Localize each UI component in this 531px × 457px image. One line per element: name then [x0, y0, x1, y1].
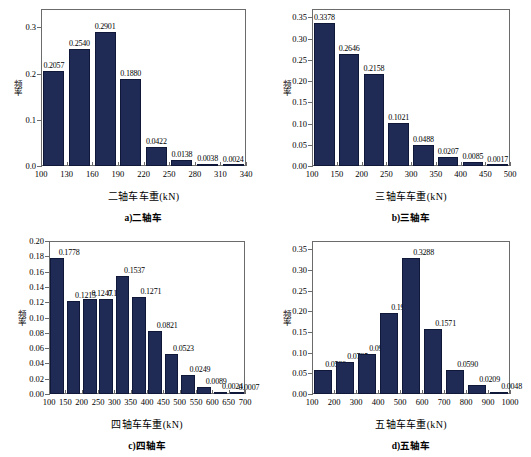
bar-value-label: 0.0048	[501, 382, 522, 391]
x-tick-a-8	[246, 162, 247, 166]
y-tick-label-b-2: 0.10	[292, 119, 307, 128]
bar-value-label: 0.1778	[59, 248, 80, 257]
y-tick-label-a-1: 0.1	[25, 115, 36, 124]
bar	[490, 392, 508, 394]
bar-value-label: 0.0085	[462, 152, 483, 161]
panel-a: 0.00.10.20.31001301601902202502803103400…	[0, 0, 265, 229]
bar-value-label: 0.0523	[173, 344, 194, 353]
bar-value-label: 0.2901	[95, 22, 116, 31]
bar-value-label: 0.0017	[487, 155, 508, 164]
y-tick-label-c-2: 0.04	[29, 359, 44, 368]
y-tick-c-0	[45, 394, 50, 395]
bar-value-label: 0.2057	[43, 61, 64, 70]
bar-value-label: 0.0207	[438, 147, 459, 156]
y-tick-label-b-5: 0.25	[292, 55, 307, 64]
bar	[116, 276, 129, 394]
bar-series-b: 0.33780.26460.21580.10210.04880.02070.00…	[312, 9, 510, 166]
bar	[364, 74, 384, 166]
y-axis-label-c: 频率	[15, 310, 27, 326]
chart-b: 0.000.050.100.150.200.250.300.3510015020…	[312, 9, 510, 166]
y-tick-label-d-6: 0.30	[292, 265, 307, 274]
bar	[181, 375, 194, 394]
bar-value-label: 0.0007	[238, 383, 259, 392]
panel-caption-b: b)三轴车	[392, 210, 430, 224]
y-tick-label-b-6: 0.30	[292, 34, 307, 43]
x-axis-label-c: 四轴车车重(kN)	[111, 416, 183, 431]
y-tick-label-d-3: 0.15	[292, 327, 307, 336]
bar-value-label: 0.0821	[157, 321, 178, 330]
bar-value-label: 0.1271	[140, 287, 161, 296]
bar	[468, 385, 486, 394]
bar	[358, 354, 376, 394]
y-tick-label-d-5: 0.25	[292, 286, 307, 295]
y-tick-label-c-5: 0.10	[29, 313, 44, 322]
panel-d: 0.000.050.100.150.200.250.300.3510020030…	[265, 229, 531, 457]
chart-d: 0.000.050.100.150.200.250.300.3510020030…	[312, 241, 510, 394]
bar-value-label: 0.2646	[339, 44, 360, 53]
bar	[380, 313, 398, 394]
y-tick-label-d-2: 0.10	[292, 348, 307, 357]
y-axis-label-a: 频率	[11, 80, 23, 96]
chart-c: 0.000.020.040.060.080.100.120.140.160.18…	[49, 241, 245, 394]
y-tick-d-0	[308, 394, 313, 395]
y-axis-label-d: 频率	[280, 310, 292, 326]
bar-series-d: 0.05890.07850.09570.19630.32880.15710.05…	[312, 241, 510, 394]
bar	[402, 258, 420, 394]
x-axis-label-d: 五轴车车重(kN)	[375, 416, 447, 431]
y-tick-label-c-3: 0.06	[29, 344, 44, 353]
bar	[413, 145, 433, 166]
bar-value-label: 0.0422	[146, 137, 167, 146]
bar	[487, 164, 507, 166]
y-tick-label-b-3: 0.15	[292, 98, 307, 107]
y-tick-label-b-1: 0.05	[292, 140, 307, 149]
bar	[214, 392, 227, 394]
x-tick-b-8	[510, 162, 511, 166]
bar	[120, 79, 141, 166]
panel-caption-c: c)四轴车	[128, 438, 165, 452]
figure-grid: 0.00.10.20.31001301601902202502803103400…	[0, 0, 531, 457]
y-tick-label-d-4: 0.20	[292, 307, 307, 316]
bar-value-label: 0.0488	[413, 135, 434, 144]
y-tick-label-d-7: 0.35	[292, 245, 307, 254]
bar-value-label: 0.0024	[223, 155, 244, 164]
panel-caption-a: a)二轴车	[125, 210, 163, 224]
bar-value-label: 0.1880	[120, 69, 141, 78]
bar	[165, 354, 178, 394]
bar	[438, 157, 458, 166]
panel-c: 0.000.020.040.060.080.100.120.140.160.18…	[0, 229, 265, 457]
bar	[148, 331, 161, 394]
bar	[43, 71, 64, 166]
bar-series-a: 0.20570.25400.29010.18800.04220.01380.00…	[41, 9, 246, 166]
panel-b: 0.000.050.100.150.200.250.300.3510015020…	[265, 0, 531, 229]
bar-series-c: 0.17780.12150.12470.12390.15370.12710.08…	[49, 241, 245, 394]
bar	[132, 297, 145, 394]
bar	[339, 54, 359, 166]
bar	[95, 32, 116, 166]
y-tick-a-0	[37, 166, 42, 167]
y-tick-label-b-4: 0.20	[292, 77, 307, 86]
bar	[463, 162, 483, 166]
bar	[171, 160, 192, 166]
y-tick-label-c-1: 0.02	[29, 374, 44, 383]
y-tick-label-b-7: 0.35	[292, 13, 307, 22]
y-tick-label-c-6: 0.12	[29, 298, 44, 307]
bar	[446, 370, 464, 394]
bar	[388, 123, 408, 166]
y-tick-label-d-1: 0.05	[292, 369, 307, 378]
bar-value-label: 0.0590	[457, 360, 478, 369]
bar	[69, 49, 90, 166]
bar	[67, 301, 80, 394]
bar	[314, 23, 334, 166]
bar-value-label: 0.3378	[314, 13, 335, 22]
y-tick-label-a-2: 0.2	[25, 69, 36, 78]
bar	[99, 299, 112, 394]
x-axis-label-b: 三轴车车重(kN)	[375, 188, 447, 203]
bar	[314, 370, 332, 394]
bar-value-label: 0.2540	[69, 39, 90, 48]
y-axis-label-b: 频率	[280, 80, 292, 96]
bar	[50, 258, 63, 394]
bar	[197, 164, 218, 166]
bar-value-label: 0.1021	[388, 113, 409, 122]
y-tick-label-c-8: 0.16	[29, 267, 44, 276]
bar	[146, 147, 167, 166]
